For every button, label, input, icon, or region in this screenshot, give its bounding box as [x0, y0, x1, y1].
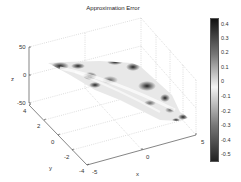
x-tick: 5 — [201, 139, 204, 145]
y-tick: 2 — [37, 123, 40, 129]
z-tick: 0 — [23, 72, 26, 78]
plot-3d-axes — [0, 0, 241, 182]
colorbar-tick: -0.4 — [221, 137, 230, 143]
colorbar-tick: -0.1 — [221, 93, 230, 99]
colorbar — [210, 18, 219, 162]
colorbar-tick: 0 — [221, 78, 224, 84]
figure: Approximation Error — [0, 0, 241, 182]
x-axis-label: x — [136, 171, 139, 177]
x-tick: 0 — [146, 154, 149, 160]
x-tick: -5 — [92, 169, 97, 175]
y-tick: -2 — [64, 154, 69, 160]
colorbar-tick: 0.1 — [221, 64, 229, 70]
z-tick: 50 — [19, 44, 26, 50]
y-tick: 0 — [51, 139, 54, 145]
colorbar-tick: 0.4 — [221, 21, 229, 27]
colorbar-tick: 0.2 — [221, 49, 229, 55]
y-axis-label: y — [49, 165, 52, 171]
colorbar-tick: -0.3 — [221, 122, 230, 128]
error-surface — [40, 55, 195, 125]
z-axis-label: z — [11, 76, 14, 82]
colorbar-tick: 0.3 — [221, 35, 229, 41]
colorbar-tick: -0.2 — [221, 108, 230, 114]
z-tick: -50 — [17, 100, 26, 106]
colorbar-tick: -0.5 — [221, 151, 230, 157]
y-tick: -4 — [79, 168, 84, 174]
y-tick: 4 — [23, 108, 26, 114]
